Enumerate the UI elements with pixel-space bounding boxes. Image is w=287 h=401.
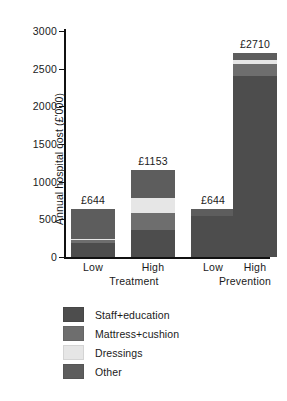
plot-area: Annual hospital cost (£'000) 05001000150…: [65, 31, 270, 257]
bar-segment[interactable]: [191, 209, 235, 216]
x-axis-group-label: Prevention: [185, 275, 287, 287]
legend-label: Dressings: [95, 347, 143, 359]
bar-segment[interactable]: [131, 213, 175, 230]
x-axis-label: High: [123, 261, 183, 273]
bar-segment[interactable]: [71, 243, 115, 257]
bar-segment[interactable]: [131, 198, 175, 213]
x-axis-group-label: Treatment: [74, 275, 194, 287]
legend-item[interactable]: Mattress+cushion: [63, 324, 263, 343]
bar-segment[interactable]: [233, 76, 277, 257]
legend-swatch: [63, 345, 84, 360]
y-tick-label: 1000: [33, 176, 57, 188]
chart-root: Annual hospital cost (£'000) 05001000150…: [0, 0, 287, 401]
bar-column[interactable]: £2710: [233, 53, 277, 257]
bar-segment[interactable]: [233, 64, 277, 76]
bar-segment[interactable]: [191, 216, 235, 257]
y-tick-mark: [59, 31, 65, 32]
bar-column[interactable]: £644: [191, 209, 235, 258]
bar-column[interactable]: £644: [71, 209, 115, 258]
legend-item[interactable]: Dressings: [63, 343, 263, 362]
legend-item[interactable]: Other: [63, 362, 263, 381]
bar-column[interactable]: £1153: [131, 170, 175, 257]
legend-swatch: [63, 307, 84, 322]
x-axis-label: High: [225, 261, 285, 273]
legend-item[interactable]: Staff+education: [63, 305, 263, 324]
chart-legend: Staff+educationMattress+cushionDressings…: [63, 305, 263, 381]
legend-label: Mattress+cushion: [95, 328, 179, 340]
legend-swatch: [63, 326, 84, 341]
bar-value-label: £644: [81, 194, 105, 206]
y-tick-label: 500: [39, 213, 57, 225]
x-axis-line: [64, 257, 270, 259]
y-tick-label: 1500: [33, 138, 57, 150]
y-tick-label: 2500: [33, 63, 57, 75]
bar-value-label: £1153: [138, 155, 167, 167]
bar-segment[interactable]: [131, 170, 175, 198]
bar-value-label: £644: [201, 194, 225, 206]
y-tick-mark: [59, 144, 65, 145]
legend-swatch: [63, 364, 84, 379]
y-axis-title: Annual hospital cost (£'000): [53, 93, 65, 225]
legend-label: Other: [95, 366, 122, 378]
bar-segment[interactable]: [131, 230, 175, 257]
legend-label: Staff+education: [95, 309, 170, 321]
y-tick-label: 2000: [33, 100, 57, 112]
y-tick-label: 0: [51, 251, 57, 263]
bar-segment[interactable]: [71, 209, 115, 239]
y-tick-mark: [59, 182, 65, 183]
x-axis-label: Low: [63, 261, 123, 273]
y-tick-mark: [59, 257, 65, 258]
bar-segment[interactable]: [233, 53, 277, 60]
y-tick-label: 3000: [33, 25, 57, 37]
y-tick-mark: [59, 106, 65, 107]
bar-value-label: £2710: [240, 38, 270, 50]
y-tick-mark: [59, 219, 65, 220]
y-tick-mark: [59, 69, 65, 70]
